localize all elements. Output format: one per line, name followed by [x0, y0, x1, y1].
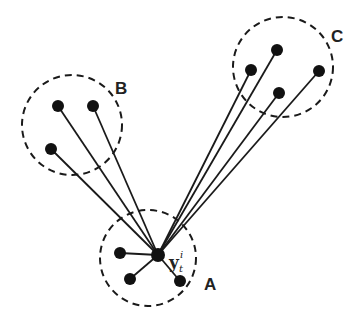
- edge-b-1: [93, 106, 158, 255]
- edge-c-1: [158, 70, 251, 255]
- cluster-label-b: B: [115, 79, 127, 98]
- node-b-0: [52, 100, 64, 112]
- cluster-label-c: C: [331, 27, 343, 46]
- node-c-1: [245, 64, 257, 76]
- node-c-3: [313, 65, 325, 77]
- edge-b-0: [58, 106, 158, 255]
- edge-c-2: [158, 93, 279, 255]
- cluster-boundary-b: [22, 75, 122, 175]
- diagram-canvas: ABCyit: [0, 0, 358, 326]
- node-c-2: [273, 87, 285, 99]
- center-node-subscript: t: [179, 263, 184, 274]
- center-node: [151, 248, 165, 262]
- cluster-label-a: A: [204, 275, 216, 294]
- node-a-1: [124, 273, 136, 285]
- center-node-superscript: i: [180, 249, 183, 260]
- node-c-0: [271, 44, 283, 56]
- edge-c-3: [158, 71, 319, 255]
- node-b-2: [45, 143, 57, 155]
- node-a-2: [174, 275, 186, 287]
- node-b-1: [87, 100, 99, 112]
- cluster-diagram: ABCyit: [0, 0, 358, 326]
- edge-c-0: [158, 50, 277, 255]
- node-a-0: [114, 247, 126, 259]
